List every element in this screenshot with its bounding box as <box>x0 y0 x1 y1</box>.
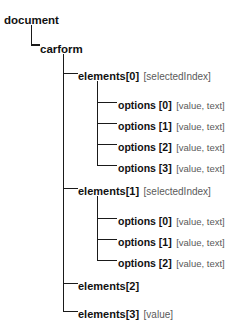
node-label: options [0] <box>118 99 172 111</box>
tree-node-elements0-option3[interactable]: options [3] [value, text] <box>118 159 225 175</box>
node-annotation: [selectedIndex] <box>144 186 211 197</box>
node-label: elements[3] <box>78 308 139 320</box>
tree-node-elements2[interactable]: elements[2] <box>78 277 139 293</box>
node-label: options [1] <box>118 120 172 132</box>
node-annotation: [value, text] <box>176 100 225 111</box>
node-label: elements[1] <box>78 185 139 197</box>
tree-node-document[interactable]: document <box>4 11 59 27</box>
node-label: carform <box>40 43 83 55</box>
node-label: options [2] <box>118 141 172 153</box>
tree-node-elements0-option0[interactable]: options [0] [value, text] <box>118 96 225 112</box>
tree-node-carform[interactable]: carform <box>40 40 83 56</box>
node-label: options [3] <box>118 162 172 174</box>
tree-node-elements1-option2[interactable]: options [2] [value, text] <box>118 254 225 270</box>
tree-node-elements1-option0[interactable]: options [0] [value, text] <box>118 212 225 228</box>
tree-node-elements0-option1[interactable]: options [1] [value, text] <box>118 117 225 133</box>
node-annotation: [value] <box>144 309 173 320</box>
tree-node-elements0[interactable]: elements[0] [selectedIndex] <box>78 67 211 83</box>
node-annotation: [value, text] <box>176 237 225 248</box>
node-annotation: [value, text] <box>176 142 225 153</box>
node-annotation: [value, text] <box>176 121 225 132</box>
node-annotation: [selectedIndex] <box>144 71 211 82</box>
node-label: options [2] <box>118 257 172 269</box>
node-label: options [1] <box>118 236 172 248</box>
node-label: document <box>4 14 59 26</box>
node-annotation: [value, text] <box>176 258 225 269</box>
node-label: elements[0] <box>78 70 139 82</box>
tree-node-elements1-option1[interactable]: options [1] [value, text] <box>118 233 225 249</box>
node-label: options [0] <box>118 215 172 227</box>
tree-node-elements3[interactable]: elements[3] [value] <box>78 305 173 321</box>
node-label: elements[2] <box>78 280 139 292</box>
tree-node-elements1[interactable]: elements[1] [selectedIndex] <box>78 182 211 198</box>
connector-document-carform <box>32 25 40 45</box>
node-annotation: [value, text] <box>176 216 225 227</box>
tree-diagram: document carform elements[0] [selectedIn… <box>0 0 242 332</box>
node-annotation: [value, text] <box>176 163 225 174</box>
tree-node-elements0-option2[interactable]: options [2] [value, text] <box>118 138 225 154</box>
